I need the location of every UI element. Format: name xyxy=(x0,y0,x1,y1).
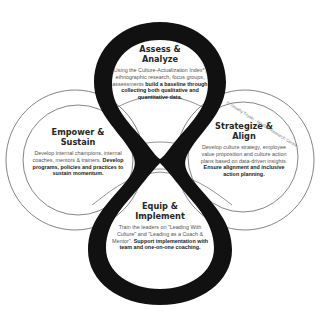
stage-description: Develop culture strategy, employee value… xyxy=(196,144,292,178)
stage-description: Using the Culture-Actualization Index*, … xyxy=(110,67,210,101)
stage-empower-sustain: Empower & Sustain Develop internal champ… xyxy=(30,128,126,177)
stage-title: Assess & Analyze xyxy=(110,45,210,64)
description-emphasis: Support implementation with team and one… xyxy=(119,238,208,251)
title-line: Implement xyxy=(112,212,208,222)
stage-title: Empower & Sustain xyxy=(30,128,126,147)
description-emphasis: Ensure alignment and inclusive action pl… xyxy=(204,164,285,177)
stage-title: Equip & Implement xyxy=(112,202,208,221)
stage-description: Train the leaders on "Leading With Cultu… xyxy=(112,224,208,251)
title-line: Sustain xyxy=(30,138,126,148)
stage-equip-implement: Equip & Implement Train the leaders on "… xyxy=(112,202,208,251)
stage-description: Develop internal champions, internal coa… xyxy=(30,150,126,177)
stage-assess-analyze: Assess & Analyze Using the Culture-Actua… xyxy=(110,45,210,101)
title-line: Analyze xyxy=(110,55,210,65)
description-text: Develop culture strategy, employee value… xyxy=(201,144,287,163)
